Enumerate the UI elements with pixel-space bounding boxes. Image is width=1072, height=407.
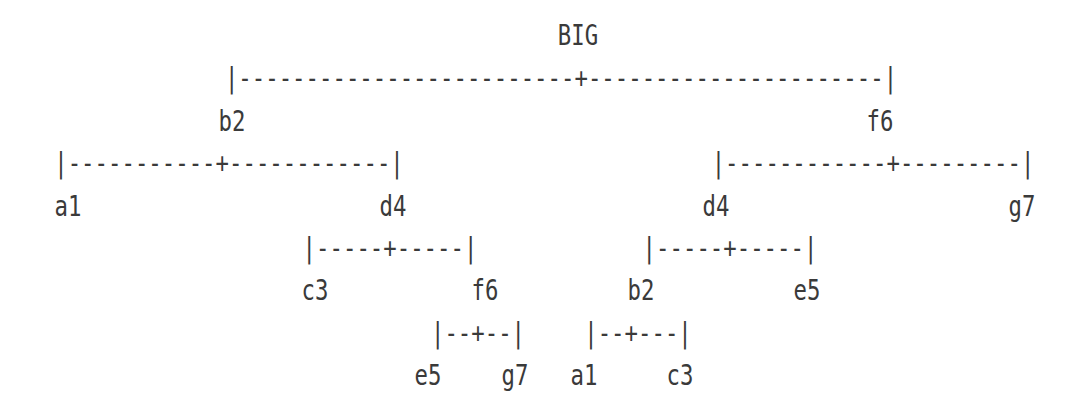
interval-line-big: |-------------------------+-------------… <box>224 61 896 96</box>
node-label-g7: g7 <box>1008 189 1035 224</box>
interval-line-d4-right: |-----+-----| <box>643 231 818 266</box>
node-label-b2: b2 <box>219 104 246 139</box>
interval-line-d4-left: |-----+-----| <box>303 231 478 266</box>
interval-line-b2: |-----------+------------| <box>54 146 404 181</box>
interval-line-f6: |------------+---------| <box>711 146 1034 181</box>
node-label-c3: c3 <box>302 273 329 308</box>
interval-tree-figure: BIG |-------------------------+---------… <box>0 0 1072 407</box>
node-label-f6: f6 <box>867 104 894 139</box>
node-label-f6-lower: f6 <box>472 273 499 308</box>
node-label-d4-left: d4 <box>380 189 407 224</box>
node-label-big: BIG <box>558 18 598 53</box>
interval-line-b2-inner: |--+---| <box>584 316 692 351</box>
node-label-a1-bottom: a1 <box>571 358 598 393</box>
node-label-b2-lower: b2 <box>627 273 654 308</box>
node-label-e5-bottom: e5 <box>415 358 442 393</box>
node-label-e5: e5 <box>794 273 821 308</box>
node-label-a1: a1 <box>55 189 82 224</box>
node-label-d4-right: d4 <box>702 189 729 224</box>
node-label-c3-bottom: c3 <box>667 358 694 393</box>
interval-line-f6-inner: |--+--| <box>430 316 524 351</box>
node-label-g7-bottom: g7 <box>501 358 528 393</box>
